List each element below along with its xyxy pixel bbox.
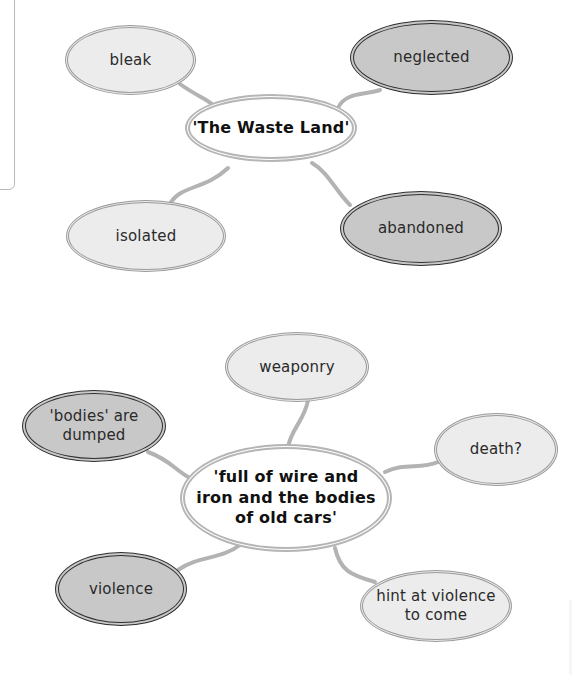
connector-death xyxy=(385,462,438,472)
node-bodies-dumped: 'bodies' are dumped xyxy=(22,390,166,462)
node-weaponry: weaponry xyxy=(225,332,369,402)
node-label: neglected xyxy=(393,48,469,67)
central-line: of old cars' xyxy=(235,508,337,527)
node-isolated: isolated xyxy=(66,200,226,272)
connector-bleak xyxy=(180,84,212,104)
node-label-line: dumped xyxy=(62,426,125,444)
node-hint-violence: hint at violence to come xyxy=(360,570,512,642)
connector-isolated xyxy=(170,168,228,204)
node-label: weaponry xyxy=(259,358,335,377)
node-label: isolated xyxy=(116,227,177,246)
node-label: hint at violence to come xyxy=(376,587,495,625)
node-label: death? xyxy=(470,440,523,459)
node-label-line: 'bodies' are xyxy=(49,407,138,425)
central-line: iron and the bodies xyxy=(196,488,376,507)
connector-bodies xyxy=(148,452,190,478)
node-label: bleak xyxy=(110,51,152,70)
node-death: death? xyxy=(434,413,558,486)
connector-abandoned xyxy=(312,163,350,205)
connector-weaponry xyxy=(288,400,308,448)
central-line: 'full of wire and xyxy=(214,467,359,486)
central-concept-label: 'The Waste Land' xyxy=(192,118,349,138)
node-violence: violence xyxy=(55,552,187,626)
connector-hint xyxy=(335,548,375,582)
central-concept-quote: 'full of wire and iron and the bodies of… xyxy=(180,444,392,552)
node-label: violence xyxy=(89,580,153,599)
central-concept-waste-land: 'The Waste Land' xyxy=(185,94,357,162)
connector-neglected xyxy=(338,90,380,108)
node-neglected: neglected xyxy=(350,20,513,95)
node-bleak: bleak xyxy=(65,25,196,95)
connector-violence xyxy=(178,545,240,570)
node-label-line: to come xyxy=(405,606,468,624)
node-label: 'bodies' are dumped xyxy=(49,407,138,445)
central-concept-label: 'full of wire and iron and the bodies of… xyxy=(196,467,376,528)
node-abandoned: abandoned xyxy=(340,191,502,266)
node-label-line: hint at violence xyxy=(376,587,495,605)
node-label: abandoned xyxy=(378,219,464,238)
